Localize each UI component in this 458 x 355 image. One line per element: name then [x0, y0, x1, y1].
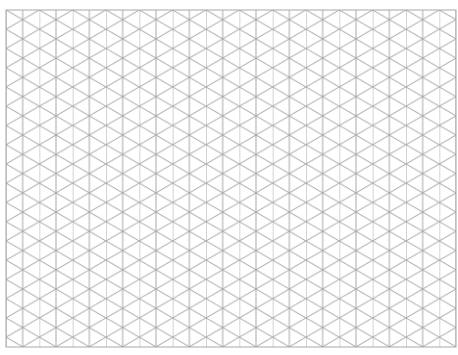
- grid-pattern: [6, 10, 456, 347]
- isometric-grid: [0, 0, 458, 355]
